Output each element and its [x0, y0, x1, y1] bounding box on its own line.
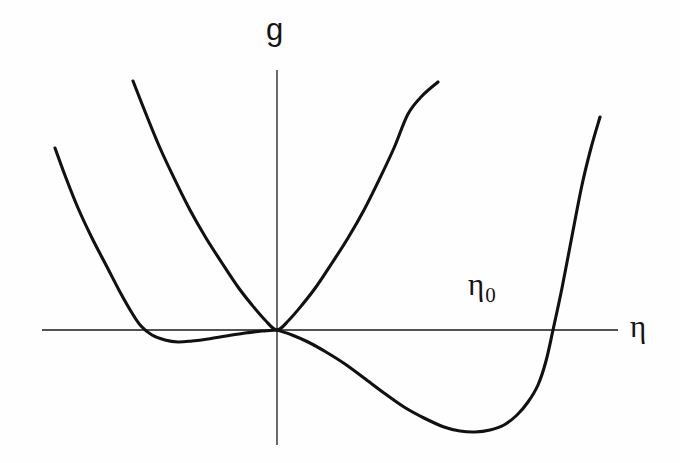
- figure-canvas: g η η0: [0, 0, 680, 463]
- plot-area: [0, 0, 680, 463]
- axes-group: [42, 70, 618, 445]
- curves-group: [55, 81, 600, 432]
- eta-zero-symbol: η: [468, 267, 484, 302]
- y-axis-label: g: [266, 14, 283, 45]
- curve-shallow-left-well-curve: [55, 148, 277, 342]
- curve-narrow-symmetric-parabola: [133, 81, 438, 330]
- x-axis-label: η: [630, 311, 646, 342]
- eta-zero-subscript: 0: [485, 283, 496, 307]
- eta-zero-annotation: η0: [468, 269, 496, 306]
